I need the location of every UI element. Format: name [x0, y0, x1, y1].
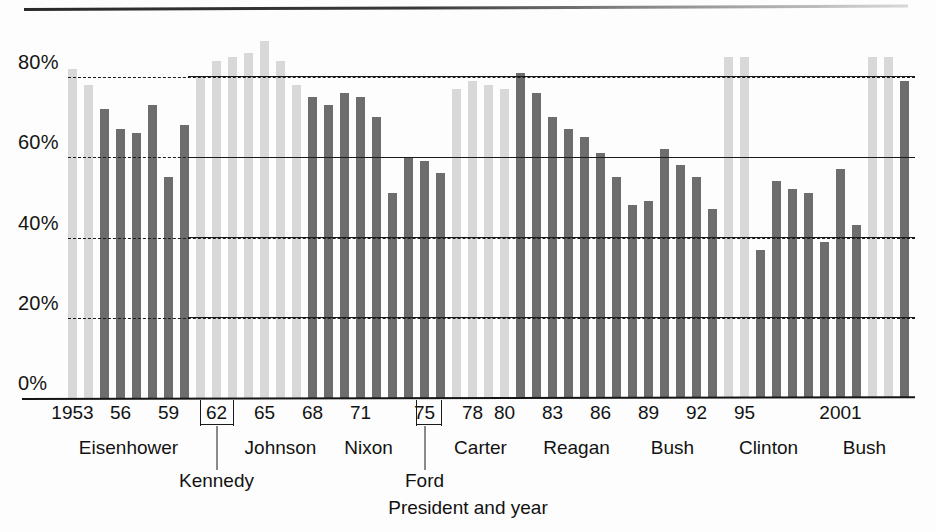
bar-1953: [68, 69, 77, 398]
x-tick-label-89: 89: [638, 402, 659, 424]
bar-1981: [516, 73, 525, 398]
bar-1977: [452, 89, 461, 398]
gridline-solid-segment: [188, 317, 915, 318]
bar-1974: [404, 157, 413, 398]
bar-2002: [852, 225, 861, 398]
bar-1957: [132, 133, 141, 398]
bar-1979: [484, 85, 493, 398]
x-tick-label-95: 95: [734, 402, 755, 424]
y-tick-label-40: 40%: [18, 212, 59, 235]
bar-2004: [884, 57, 893, 398]
page-top-rule: [24, 5, 908, 11]
gridline-40: [68, 238, 915, 239]
x-tick-label-1953: 1953: [51, 402, 93, 424]
bar-1978: [468, 81, 477, 398]
bar-1973: [388, 193, 397, 398]
president-label-bush: Bush: [651, 437, 694, 459]
bar-1965: [260, 41, 269, 398]
bar-1969: [324, 105, 333, 398]
president-label-bush: Bush: [843, 437, 886, 459]
bracket-cap-kennedy: [201, 424, 233, 425]
bar-1990: [660, 149, 669, 398]
bar-1959: [164, 177, 173, 398]
bracket-stem-kennedy: [216, 426, 217, 470]
bar-1997: [772, 181, 781, 398]
plot-area: [68, 30, 915, 398]
bar-1982: [532, 93, 541, 398]
x-tick-label-65: 65: [254, 402, 275, 424]
x-tick-label-92: 92: [686, 402, 707, 424]
bar-1960: [180, 125, 189, 398]
president-label-eisenhower: Eisenhower: [79, 437, 178, 459]
bar-1962: [212, 61, 221, 398]
bar-1956: [116, 129, 125, 398]
chart-page: 0%20%40%60%80% 1953565962656871757880838…: [0, 0, 936, 532]
x-axis-title: President and year: [0, 497, 936, 519]
bar-1970: [340, 93, 349, 398]
bar-2001: [836, 169, 845, 398]
bar-1980: [500, 89, 509, 398]
bar-1954: [84, 85, 93, 398]
bar-1991: [676, 165, 685, 398]
x-tick-label-80: 80: [494, 402, 515, 424]
x-axis-tick-labels: 195356596265687175788083868992952001: [68, 402, 928, 432]
bar-1996: [756, 250, 765, 398]
bar-2000: [820, 242, 829, 398]
x-tick-label-83: 83: [542, 402, 563, 424]
x-tick-label-78: 78: [462, 402, 483, 424]
x-tick-label-2001: 2001: [819, 402, 861, 424]
bracket-stem-ford: [424, 426, 425, 470]
bar-1986: [596, 153, 605, 398]
bar-1968: [308, 97, 317, 398]
president-label-reagan: Reagan: [543, 437, 610, 459]
bracket-kennedy: [200, 400, 234, 426]
bar-1967: [292, 85, 301, 398]
bar-1955: [100, 109, 109, 398]
bar-1989: [644, 201, 653, 398]
gridline-solid-segment: [188, 157, 915, 158]
x-tick-label-59: 59: [158, 402, 179, 424]
bracket-cap-ford: [417, 424, 441, 425]
bar-series: [68, 30, 915, 398]
bar-1998: [788, 189, 797, 398]
bar-1987: [612, 177, 621, 398]
x-tick-label-56: 56: [110, 402, 131, 424]
bar-1963: [228, 57, 237, 398]
gridline-20: [68, 318, 915, 319]
bar-1975: [420, 161, 429, 398]
bar-1972: [372, 117, 381, 398]
x-tick-label-86: 86: [590, 402, 611, 424]
president-label-carter: Carter: [454, 437, 507, 459]
bar-1964: [244, 53, 253, 398]
x-tick-label-71: 71: [350, 402, 371, 424]
bar-1988: [628, 205, 637, 398]
bar-1994: [724, 57, 733, 398]
gridline-solid-segment: [188, 76, 915, 77]
bar-1983: [548, 117, 557, 398]
president-label-ford: Ford: [405, 470, 444, 492]
bar-1995: [740, 57, 749, 398]
x-tick-label-68: 68: [302, 402, 323, 424]
bar-1999: [804, 193, 813, 398]
president-label-kennedy: Kennedy: [179, 470, 254, 492]
gridline-solid-segment: [188, 237, 915, 238]
bar-1992: [692, 177, 701, 398]
bar-1984: [564, 129, 573, 398]
y-tick-label-20: 20%: [18, 292, 59, 315]
bar-1985: [580, 137, 589, 398]
y-tick-label-80: 80%: [18, 51, 59, 74]
gridline-80: [68, 77, 915, 78]
bar-1971: [356, 97, 365, 398]
president-label-nixon: Nixon: [344, 437, 393, 459]
y-tick-label-0: 0%: [18, 372, 47, 395]
president-label-clinton: Clinton: [739, 437, 798, 459]
bracket-ford: [416, 400, 442, 426]
bar-1958: [148, 105, 157, 398]
gridline-60: [68, 157, 915, 158]
bar-undefined: [900, 81, 909, 398]
bar-1966: [276, 61, 285, 398]
bar-2003: [868, 57, 877, 398]
president-label-johnson: Johnson: [245, 437, 317, 459]
y-tick-label-60: 60%: [18, 131, 59, 154]
bar-1976: [436, 173, 445, 398]
